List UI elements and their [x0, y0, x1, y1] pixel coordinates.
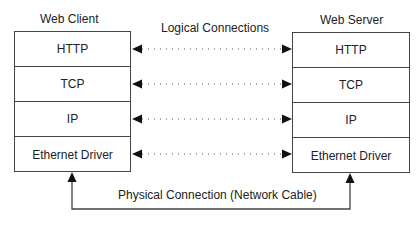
- arrowheads: [68, 45, 355, 184]
- physical-connection-label: Physical Connection (Network Cable): [118, 188, 317, 202]
- logical-connection-arrows: [142, 49, 282, 154]
